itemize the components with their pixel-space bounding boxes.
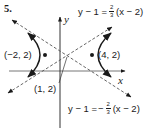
fraction-numerator: 2 xyxy=(110,4,113,10)
slope-fraction: 2 3 xyxy=(109,4,114,18)
equation-sign: − xyxy=(98,103,104,114)
right-vertex-point xyxy=(90,53,94,57)
fraction-denominator: 3 xyxy=(110,12,113,18)
problem-number: 5. xyxy=(4,4,12,14)
center-label: (1, 2) xyxy=(34,84,56,94)
equation-rhs: (x − 2) xyxy=(116,6,143,17)
fraction-numerator: 2 xyxy=(106,101,109,107)
y-axis-label: y xyxy=(64,14,69,24)
asymptote-equation-negative: y − 1 = − 2 3 (x − 2) xyxy=(68,101,140,115)
left-vertex-label: (−2, 2) xyxy=(4,50,32,60)
equation-rhs: (x − 2) xyxy=(113,103,140,114)
slope-fraction: 2 3 xyxy=(106,101,111,115)
equation-lhs: y − 1 = xyxy=(78,6,107,17)
x-axis-label: x xyxy=(118,75,123,85)
fraction-denominator: 3 xyxy=(106,109,109,115)
asymptote-equation-positive: y − 1 = 2 3 (x − 2) xyxy=(78,4,143,18)
equation-lhs: y − 1 = xyxy=(68,103,97,114)
left-vertex-point xyxy=(43,53,47,57)
right-vertex-label: (4, 2) xyxy=(98,50,120,60)
